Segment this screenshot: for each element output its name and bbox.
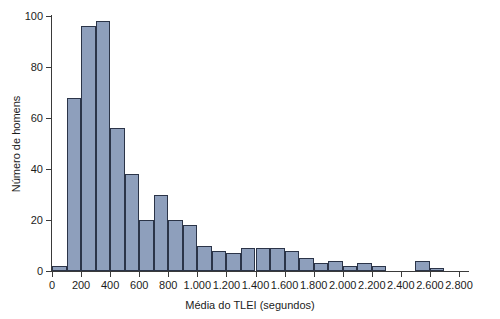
histogram-bar: [328, 261, 343, 271]
y-tick-mark: [46, 271, 51, 272]
y-tick-mark: [46, 67, 51, 68]
x-tick-mark: [314, 272, 315, 277]
y-tick-mark: [46, 220, 51, 221]
histogram-bar: [67, 98, 82, 271]
x-tick-mark: [52, 272, 53, 277]
x-tick-label: 2.800: [436, 280, 482, 291]
y-tick-mark: [46, 169, 51, 170]
x-tick-mark: [343, 272, 344, 277]
histogram-bar: [357, 263, 372, 271]
x-tick-mark: [459, 272, 460, 277]
x-axis-title: Média do TLEI (segundos): [0, 299, 500, 311]
histogram-bar: [125, 174, 140, 271]
x-tick-mark: [256, 272, 257, 277]
x-tick-mark: [197, 272, 198, 277]
x-axis-line: [51, 271, 469, 272]
x-tick-mark: [285, 272, 286, 277]
y-tick-mark: [46, 16, 51, 17]
histogram-bar: [241, 248, 256, 271]
histogram-figure: 020406080100 02004006008001.0001.2001.40…: [0, 0, 500, 319]
x-tick-mark: [430, 272, 431, 277]
y-tick-mark: [46, 118, 51, 119]
histogram-bar: [270, 248, 285, 271]
x-tick-mark: [139, 272, 140, 277]
y-axis-title: Número de homens: [10, 64, 22, 224]
histogram-bar: [314, 263, 329, 271]
x-tick-mark: [401, 272, 402, 277]
x-tick-mark: [372, 272, 373, 277]
x-tick-mark: [81, 272, 82, 277]
histogram-bar: [81, 26, 96, 271]
y-tick-label: 0: [13, 266, 43, 277]
histogram-bar: [415, 261, 430, 271]
histogram-bar: [96, 21, 111, 271]
histogram-bar: [197, 246, 212, 272]
histogram-bar: [212, 251, 227, 271]
histogram-bar: [110, 128, 125, 271]
histogram-bar: [226, 253, 241, 271]
x-tick-mark: [168, 272, 169, 277]
plot-area: [52, 16, 459, 271]
histogram-bar: [285, 251, 300, 271]
histogram-bar: [139, 220, 154, 271]
histogram-bar: [154, 195, 169, 272]
histogram-bar: [183, 225, 198, 271]
y-tick-label: 100: [13, 11, 43, 22]
x-tick-mark: [226, 272, 227, 277]
y-axis-line: [51, 15, 52, 272]
histogram-bar: [299, 258, 314, 271]
histogram-bar: [256, 248, 271, 271]
x-tick-mark: [110, 272, 111, 277]
histogram-bar: [168, 220, 183, 271]
